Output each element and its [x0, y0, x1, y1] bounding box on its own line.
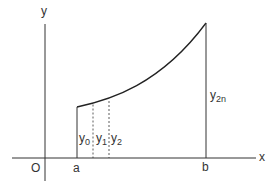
- interval-start-label: a: [73, 161, 80, 175]
- origin-label: O: [31, 161, 40, 175]
- area-under-curve-diagram: y x O a b y0 y1 y2 y2n: [0, 0, 278, 181]
- x-axis-label: x: [259, 150, 265, 164]
- ordinate-label-y0: y0: [79, 131, 90, 147]
- ordinate-label-y1: y1: [96, 131, 107, 147]
- ordinate-label-y2: y2: [111, 131, 122, 147]
- ordinate-label-y2n: y2n: [210, 88, 226, 104]
- interval-end-label: b: [202, 160, 209, 174]
- y-axis-label: y: [41, 4, 47, 18]
- curve: [77, 23, 206, 107]
